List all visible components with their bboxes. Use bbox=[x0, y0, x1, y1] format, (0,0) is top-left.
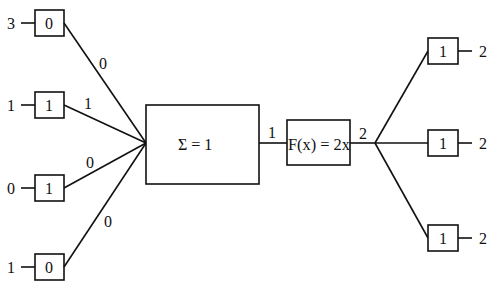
activation-node: F(x) = 2x bbox=[287, 120, 350, 165]
neuron-diagram: 3 0 0 1 1 1 0 1 0 1 0 0 Σ = 1 1 bbox=[0, 0, 497, 291]
sum-node: Σ = 1 bbox=[146, 105, 259, 184]
output-weight-2: 1 bbox=[439, 135, 447, 152]
weight-value-3: 1 bbox=[45, 180, 53, 197]
output-node-3: 1 2 bbox=[375, 143, 487, 251]
input-value-4: 1 bbox=[7, 259, 15, 276]
activation-label: F(x) = 2x bbox=[288, 136, 350, 154]
output-value-3: 2 bbox=[479, 230, 487, 247]
sum-output-label: 1 bbox=[268, 124, 276, 141]
edge-output-1 bbox=[375, 51, 428, 143]
weight-value-2: 1 bbox=[45, 97, 53, 114]
edge-input-1 bbox=[64, 23, 146, 143]
input-node-4: 1 0 0 bbox=[7, 143, 146, 280]
edge-label-4: 0 bbox=[104, 213, 112, 230]
input-value-3: 0 bbox=[7, 180, 15, 197]
edge-label-2: 1 bbox=[84, 95, 92, 112]
edge-input-3 bbox=[64, 143, 146, 188]
output-weight-1: 1 bbox=[439, 43, 447, 60]
input-node-2: 1 1 1 bbox=[7, 92, 146, 143]
output-weight-3: 1 bbox=[439, 230, 447, 247]
edge-input-4 bbox=[64, 143, 146, 267]
weight-value-4: 0 bbox=[45, 259, 53, 276]
activation-output-label: 2 bbox=[359, 125, 367, 142]
input-node-3: 0 1 0 bbox=[7, 143, 146, 201]
input-node-1: 3 0 0 bbox=[7, 10, 146, 143]
edge-label-1: 0 bbox=[99, 55, 107, 72]
edge-output-3 bbox=[375, 143, 428, 238]
output-value-2: 2 bbox=[479, 135, 487, 152]
input-value-1: 3 bbox=[7, 15, 15, 32]
output-node-1: 1 2 bbox=[375, 38, 487, 143]
input-value-2: 1 bbox=[7, 97, 15, 114]
edge-label-3: 0 bbox=[86, 154, 94, 171]
output-node-2: 1 2 bbox=[375, 130, 487, 156]
output-value-1: 2 bbox=[479, 43, 487, 60]
sum-label: Σ = 1 bbox=[178, 136, 212, 153]
weight-value-1: 0 bbox=[45, 15, 53, 32]
